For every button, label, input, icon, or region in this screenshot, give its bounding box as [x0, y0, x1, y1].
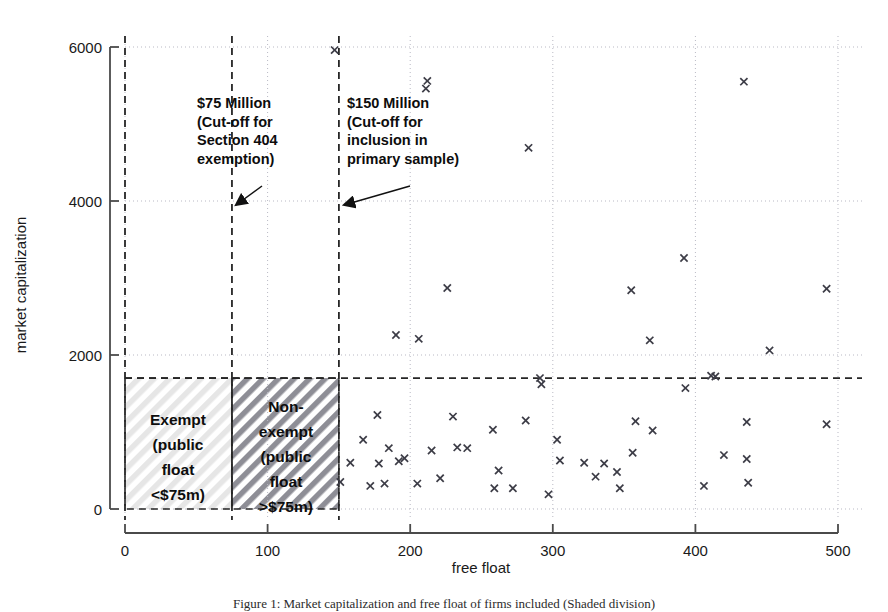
data-point [525, 144, 532, 151]
data-point [449, 413, 456, 420]
data-point [556, 457, 563, 464]
y-tick-label-2000: 2000 [69, 347, 102, 364]
data-point [545, 491, 552, 498]
data-point [629, 449, 636, 456]
x-tick-label-0: 0 [121, 542, 129, 559]
data-point [415, 335, 422, 342]
data-point [424, 77, 431, 84]
data-point [700, 482, 707, 489]
data-point [538, 381, 545, 388]
x-tick-label-200: 200 [398, 542, 423, 559]
data-point [375, 460, 382, 467]
data-point [823, 421, 830, 428]
data-point [491, 485, 498, 492]
x-tick-label-400: 400 [683, 542, 708, 559]
data-point [422, 85, 429, 92]
annotations: $75 Million(Cut-off forSection 404exempt… [197, 95, 459, 205]
x-axis-ticks [125, 524, 838, 533]
data-point [632, 418, 639, 425]
y-tick-label-6000: 6000 [69, 39, 102, 56]
data-point [680, 254, 687, 261]
data-point [428, 447, 435, 454]
data-point [347, 459, 354, 466]
data-point [616, 485, 623, 492]
x-axis-tick-labels: 0100200300400500 [121, 542, 851, 559]
data-point [649, 427, 656, 434]
data-point [495, 467, 502, 474]
data-point [374, 411, 381, 418]
data-point [601, 460, 608, 467]
data-point [823, 285, 830, 292]
data-point [367, 482, 374, 489]
data-point [743, 455, 750, 462]
data-point [360, 436, 367, 443]
x-tick-label-500: 500 [825, 542, 850, 559]
data-point [392, 331, 399, 338]
data-point [720, 452, 727, 459]
figure-caption: Figure 1: Market capitalization and free… [0, 596, 888, 612]
data-point [489, 426, 496, 433]
data-point [766, 347, 773, 354]
data-point [592, 473, 599, 480]
data-point [509, 485, 516, 492]
data-point [646, 337, 653, 344]
y-tick-label-4000: 4000 [69, 193, 102, 210]
annotation-cutoff-150m-text: $150 Million(Cut-off forinclusion inprim… [347, 95, 459, 167]
x-axis-title: free float [452, 559, 511, 576]
y-axis-tick-labels: 0200040006000 [69, 39, 102, 518]
data-point [581, 459, 588, 466]
x-tick-label-300: 300 [540, 542, 565, 559]
y-tick-label-0: 0 [94, 501, 102, 518]
data-point [444, 284, 451, 291]
data-point [628, 287, 635, 294]
data-point [743, 418, 750, 425]
data-point [414, 480, 421, 487]
data-point [553, 436, 560, 443]
data-point [437, 475, 444, 482]
data-point [740, 78, 747, 85]
data-point [745, 479, 752, 486]
data-point [454, 444, 461, 451]
annotation-cutoff-150m-arrow [344, 186, 410, 205]
y-axis-title: market capitalization [12, 217, 29, 354]
x-tick-label-100: 100 [255, 542, 280, 559]
y-axis-ticks [110, 47, 119, 509]
data-point [385, 445, 392, 452]
data-point [381, 480, 388, 487]
annotation-cutoff-75m-text: $75 Million(Cut-off forSection 404exempt… [197, 95, 278, 167]
data-point [682, 385, 689, 392]
data-point [464, 445, 471, 452]
data-point [331, 46, 338, 53]
data-point [522, 417, 529, 424]
data-point [613, 468, 620, 475]
annotation-cutoff-75m-arrow [236, 186, 262, 205]
